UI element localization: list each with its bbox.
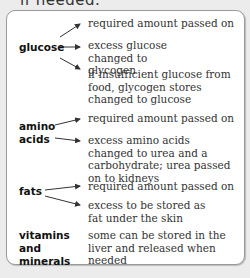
cropped-heading: if needed. — [20, 0, 100, 9]
target-amino-1: required amount passed on — [88, 112, 238, 125]
target-fats-2: excess to be stored as fat under the ski… — [88, 199, 213, 224]
source-vitamins-minerals: vitamins and minerals — [19, 229, 74, 268]
target-glucose-1: required amount passed on — [88, 17, 238, 30]
source-fats: fats — [19, 185, 42, 198]
source-glucose: glucose — [19, 41, 64, 54]
target-fats-1: required amount passed on — [88, 180, 238, 193]
target-amino-2: excess amino acids changed to urea and a… — [88, 134, 238, 184]
target-vitamins-1: some can be stored in the liver and rele… — [88, 229, 238, 267]
target-glucose-3: if insufficient glucose from food, glyco… — [88, 68, 248, 106]
source-amino-acids: amino acids — [19, 120, 59, 146]
